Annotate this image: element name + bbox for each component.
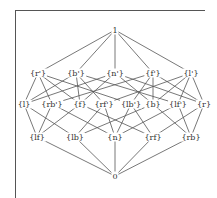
lattice-node-lb-c: {lb'} (120, 100, 142, 109)
lattice-node-l-c: {l'} (183, 69, 200, 78)
lattice-edge (115, 137, 191, 176)
lattice-node-rb-c: {rb'} (40, 100, 63, 109)
lattice-node-rf-c: {rf'} (93, 100, 114, 109)
lattice-edge (115, 30, 153, 73)
lattice-edge (115, 30, 191, 73)
lattice-edge (37, 137, 115, 176)
lattice-node-lb: {lb} (65, 133, 85, 142)
lattice-node-f-c: {f'} (144, 69, 161, 78)
lattice-node-r-c: {r'} (29, 69, 47, 78)
lattice-node-n-c: {n'} (105, 69, 125, 78)
lattice-node-lf: {lf} (28, 133, 46, 142)
lattice-node-l: {l} (17, 100, 32, 109)
lattice-node-b-c: {b'} (66, 69, 86, 78)
lattice-node-lf-c: {lf'} (168, 100, 188, 109)
lattice-node-n: {n} (106, 133, 123, 142)
lattice-node-rf: {rf} (144, 133, 163, 142)
lattice-node-top: 1 (111, 26, 118, 35)
lattice-edge (115, 137, 153, 176)
lattice-edge (76, 30, 115, 73)
lattice-edge (38, 30, 115, 73)
lattice-node-f: {f} (72, 100, 87, 109)
lattice-node-bottom: 0 (111, 172, 118, 181)
lattice-edge (75, 137, 115, 176)
lattice-node-rb: {rb} (180, 133, 201, 142)
lattice-node-r: {r} (196, 100, 212, 109)
lattice-node-b: {b} (144, 100, 161, 109)
